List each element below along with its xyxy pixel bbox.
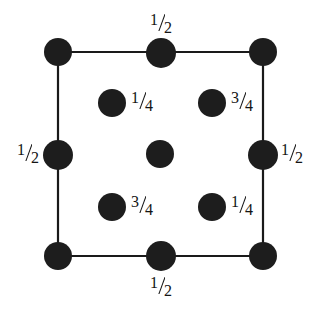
label-upper-left-numerator: 1 — [131, 89, 139, 106]
label-top-denominator: 2 — [164, 19, 172, 36]
atom-interior-upper-right — [198, 89, 226, 117]
atom-corner-bottom-left — [44, 242, 72, 270]
label-left-denominator: 2 — [31, 149, 39, 166]
unit-cell-diagram — [0, 0, 315, 311]
label-upper-right: 34 — [231, 90, 253, 110]
atom-edge-right-middle — [248, 140, 278, 170]
label-right-numerator: 1 — [281, 141, 289, 158]
atom-corner-top-right — [249, 38, 277, 66]
label-top-numerator: 1 — [150, 11, 158, 28]
label-lower-right: 14 — [231, 194, 253, 214]
atom-center — [146, 140, 174, 168]
label-upper-right-numerator: 3 — [231, 89, 239, 106]
label-left-numerator: 1 — [17, 141, 25, 158]
label-right-denominator: 2 — [295, 149, 303, 166]
unit-cell-figure: 1214341212341412 — [0, 0, 315, 311]
label-lower-left-denominator: 4 — [145, 201, 153, 218]
atom-edge-top-middle — [146, 38, 176, 68]
atom-interior-upper-left — [98, 89, 126, 117]
label-lower-left-numerator: 3 — [131, 193, 139, 210]
label-bottom-denominator: 2 — [164, 282, 172, 299]
atom-edge-left-middle — [43, 140, 73, 170]
label-upper-left: 14 — [131, 90, 153, 110]
atom-interior-lower-right — [198, 193, 226, 221]
atom-corner-top-left — [44, 38, 72, 66]
atom-edge-bottom-middle — [146, 241, 176, 271]
atom-group — [43, 38, 278, 271]
label-upper-right-denominator: 4 — [245, 97, 253, 114]
atom-interior-lower-left — [98, 193, 126, 221]
label-bottom-numerator: 1 — [150, 274, 158, 291]
label-lower-right-numerator: 1 — [231, 193, 239, 210]
label-top: 12 — [150, 12, 172, 32]
label-bottom: 12 — [150, 275, 172, 295]
label-lower-left: 34 — [131, 194, 153, 214]
label-upper-left-denominator: 4 — [145, 97, 153, 114]
label-lower-right-denominator: 4 — [245, 201, 253, 218]
atom-corner-bottom-right — [249, 242, 277, 270]
label-left: 12 — [17, 142, 39, 162]
label-right: 12 — [281, 142, 303, 162]
